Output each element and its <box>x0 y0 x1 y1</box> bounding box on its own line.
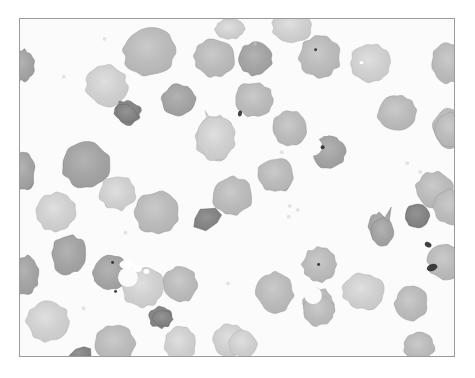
erythrocyte <box>273 111 307 146</box>
background-speck <box>226 281 230 285</box>
bite-notch <box>303 137 322 156</box>
background-speck <box>418 170 422 174</box>
dark-inclusion <box>111 261 114 264</box>
dark-inclusion <box>114 290 117 293</box>
dark-inclusion <box>314 48 317 51</box>
background-speck <box>253 42 257 46</box>
background-speck <box>296 208 300 212</box>
background-speck <box>288 204 292 208</box>
erythrocyte <box>52 235 86 275</box>
micrograph-canvas <box>20 19 454 356</box>
background-speck <box>103 37 107 41</box>
erythrocyte <box>377 95 416 130</box>
background-speck <box>287 215 291 219</box>
stain-artifact <box>143 269 149 274</box>
background-speck <box>62 75 66 79</box>
stain-artifact <box>133 265 142 272</box>
background-speck <box>124 231 128 235</box>
stain-artifact <box>120 260 134 269</box>
figure-root <box>0 0 475 378</box>
bite-notch <box>304 287 322 304</box>
background-speck <box>405 161 409 165</box>
dark-inclusion <box>321 145 325 149</box>
stain-artifact <box>359 61 363 64</box>
dark-inclusion <box>317 263 320 266</box>
background-speck <box>280 150 284 154</box>
micrograph-frame <box>19 18 455 357</box>
background-speck <box>82 306 86 310</box>
dense-dark-cell <box>405 204 429 227</box>
erythrocyte <box>134 191 178 234</box>
erythrocyte <box>258 158 293 191</box>
